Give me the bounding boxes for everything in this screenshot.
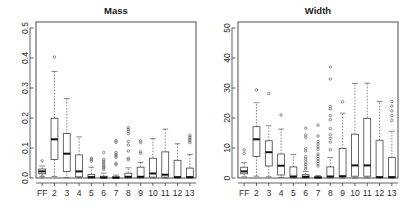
boxplot-group-left-5 <box>88 157 95 178</box>
boxplot-group-right-10 <box>351 84 358 179</box>
boxplot-group-right-6 <box>302 127 309 178</box>
outlier-0 <box>341 101 344 104</box>
boxplot-group-left-10 <box>149 139 156 178</box>
outlier-1 <box>391 114 394 117</box>
box <box>327 167 334 177</box>
outlier-0 <box>268 92 271 95</box>
x-tick-label-13: 13 <box>387 188 397 198</box>
x-tick-label-4: 4 <box>77 188 82 198</box>
x-tick-label-2: 2 <box>254 188 259 198</box>
box <box>63 134 70 172</box>
outlier-10 <box>317 135 320 138</box>
outlier-0 <box>255 89 258 92</box>
y-tick-label-right-5: 50 <box>222 23 232 33</box>
x-tick-label-10: 10 <box>148 188 158 198</box>
boxplot-group-right-FF <box>241 149 248 177</box>
x-tick-label-11: 11 <box>161 188 170 198</box>
x-tick-label-13: 13 <box>185 188 195 198</box>
outlier-7 <box>102 151 105 154</box>
outlier-0 <box>329 149 332 152</box>
x-tick-label-8: 8 <box>328 188 333 198</box>
outlier-1 <box>329 141 332 144</box>
outlier-0 <box>280 114 283 117</box>
outlier-5 <box>329 119 332 122</box>
boxplot-group-left-8 <box>125 126 132 178</box>
x-tick-label-4: 4 <box>279 188 284 198</box>
x-tick-label-11: 11 <box>363 188 372 198</box>
x-tick-label-7: 7 <box>114 188 119 198</box>
box <box>376 140 383 177</box>
outlier-3 <box>391 105 394 108</box>
box <box>351 134 358 176</box>
boxplot-group-right-11 <box>364 83 371 178</box>
outlier-4 <box>391 100 394 103</box>
box <box>388 158 395 178</box>
box <box>174 160 181 177</box>
box <box>364 118 371 176</box>
outlier-10 <box>304 127 307 130</box>
boxplot-group-left-2 <box>51 56 58 177</box>
panel-width: Width01020304050FF2345678910111213 <box>202 0 404 218</box>
boxplot-group-right-12 <box>376 102 383 179</box>
boxplot-group-left-9 <box>137 140 144 178</box>
outlier-0 <box>243 152 246 155</box>
outlier-4 <box>127 140 130 143</box>
box <box>265 141 272 166</box>
boxplot-group-right-13 <box>388 100 395 178</box>
x-tick-label-FF: FF <box>239 188 249 198</box>
outlier-11 <box>317 124 320 127</box>
plot-frame-right <box>238 22 398 178</box>
plot-svg-right: Width01020304050FF2345678910111213 <box>202 0 404 218</box>
outlier-0 <box>41 160 44 163</box>
x-tick-label-3: 3 <box>266 188 271 198</box>
y-tick-label-left-2: 0.2 <box>20 112 30 124</box>
x-tick-label-7: 7 <box>316 188 321 198</box>
outlier-0 <box>53 56 56 59</box>
box <box>278 154 285 175</box>
outlier-6 <box>329 114 332 117</box>
boxplot-group-right-3 <box>265 92 272 176</box>
outlier-2 <box>127 150 130 153</box>
outlier-4 <box>329 127 332 130</box>
x-tick-label-12: 12 <box>173 188 183 198</box>
outlier-8 <box>127 126 130 129</box>
x-tick-label-12: 12 <box>375 188 385 198</box>
y-tick-label-right-4: 40 <box>222 53 232 63</box>
x-tick-label-3: 3 <box>64 188 69 198</box>
y-tick-label-left-5: 0.5 <box>20 22 30 34</box>
outlier-3 <box>329 134 332 137</box>
x-tick-label-6: 6 <box>303 188 308 198</box>
outlier-3 <box>127 144 130 147</box>
boxplot-group-right-2 <box>253 89 260 176</box>
boxplot-group-right-7 <box>315 124 322 178</box>
x-tick-label-6: 6 <box>101 188 106 198</box>
y-tick-label-right-2: 20 <box>222 113 232 123</box>
y-tick-label-right-0: 0 <box>222 175 232 180</box>
x-tick-label-9: 9 <box>138 188 143 198</box>
boxplot-group-left-6 <box>100 151 107 178</box>
box <box>253 127 260 157</box>
boxplot-group-right-5 <box>290 155 297 178</box>
box <box>162 152 169 177</box>
boxplot-group-left-13 <box>186 134 193 178</box>
outlier-0 <box>391 119 394 122</box>
plot-svg-left: Mass0.00.10.20.30.40.5FF2345678910111213 <box>0 0 202 218</box>
x-tick-label-2: 2 <box>52 188 57 198</box>
x-tick-label-5: 5 <box>291 188 296 198</box>
box <box>339 149 346 177</box>
outlier-1 <box>243 149 246 152</box>
outlier-2 <box>329 137 332 140</box>
boxplot-group-left-11 <box>162 129 169 178</box>
box <box>76 155 83 177</box>
boxplot-group-right-8 <box>327 66 334 178</box>
x-tick-label-5: 5 <box>89 188 94 198</box>
outlier-1 <box>139 150 142 153</box>
x-tick-label-FF: FF <box>37 188 47 198</box>
y-tick-label-right-3: 30 <box>222 83 232 93</box>
y-tick-label-left-1: 0.1 <box>20 142 30 154</box>
y-tick-label-left-4: 0.4 <box>20 52 30 64</box>
outlier-2 <box>391 110 394 113</box>
boxplot-group-right-9 <box>339 101 346 178</box>
outlier-9 <box>329 78 332 81</box>
boxplot-group-left-FF <box>39 160 46 178</box>
